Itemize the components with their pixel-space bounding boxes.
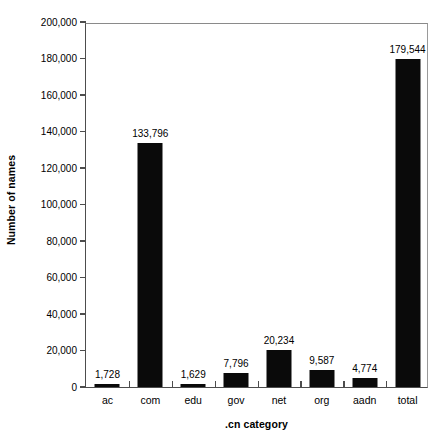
bar-group: 1,728ac bbox=[86, 24, 129, 387]
x-axis-category-label: com bbox=[140, 394, 160, 407]
x-axis-category-label: edu bbox=[184, 394, 202, 407]
y-tick-label: 60,000 bbox=[46, 270, 77, 285]
bar bbox=[352, 378, 377, 387]
bar bbox=[266, 350, 291, 387]
y-tick-label: 0 bbox=[71, 380, 77, 395]
bar-value-label: 133,796 bbox=[132, 128, 168, 140]
bar-value-label: 9,587 bbox=[309, 355, 334, 367]
x-axis-category-label: aadn bbox=[353, 394, 376, 407]
plot-area: 020,00040,00060,00080,000100,000120,0001… bbox=[85, 23, 428, 388]
y-tick-label: 80,000 bbox=[46, 234, 77, 249]
bar bbox=[95, 384, 120, 387]
x-axis-category-label: org bbox=[314, 394, 329, 407]
bar-group: 1,629edu bbox=[172, 24, 215, 387]
clipped-caption-remnant bbox=[85, 433, 428, 439]
bar-group: 133,796com bbox=[129, 24, 172, 387]
bar-value-label: 1,629 bbox=[181, 369, 206, 381]
y-tick-label: 100,000 bbox=[41, 197, 77, 212]
x-axis-category-label: gov bbox=[228, 394, 245, 407]
bar-chart-figure: Number of names 020,00040,00060,00080,00… bbox=[0, 0, 447, 440]
x-axis-category-label: net bbox=[272, 394, 287, 407]
bar bbox=[224, 373, 249, 387]
bar-group: 179,544total bbox=[386, 24, 429, 387]
bar bbox=[395, 59, 420, 387]
y-tick-label: 40,000 bbox=[46, 307, 77, 322]
y-tick-label: 180,000 bbox=[41, 51, 77, 66]
bar bbox=[138, 143, 163, 387]
bar-group: 9,587org bbox=[300, 24, 343, 387]
y-tick-label: 120,000 bbox=[41, 161, 77, 176]
bar-value-label: 20,234 bbox=[264, 335, 295, 347]
bar-value-label: 179,544 bbox=[389, 44, 425, 56]
y-tick-label: 20,000 bbox=[46, 343, 77, 358]
x-axis-category-label: ac bbox=[102, 394, 113, 407]
bar bbox=[309, 370, 334, 387]
y-tick-mark bbox=[80, 21, 86, 22]
x-axis-title: .cn category bbox=[85, 418, 428, 430]
bar-group: 20,234net bbox=[258, 24, 301, 387]
bar-group: 4,774aadn bbox=[343, 24, 386, 387]
bar bbox=[181, 384, 206, 387]
bar-value-label: 4,774 bbox=[352, 363, 377, 375]
bar-value-label: 7,796 bbox=[224, 358, 249, 370]
bar-value-label: 1,728 bbox=[95, 369, 120, 381]
bar-group: 7,796gov bbox=[215, 24, 258, 387]
y-tick-label: 200,000 bbox=[41, 15, 77, 30]
y-axis-title: Number of names bbox=[5, 120, 17, 280]
y-tick-label: 160,000 bbox=[41, 88, 77, 103]
x-axis-category-label: total bbox=[398, 394, 418, 407]
y-tick-label: 140,000 bbox=[41, 124, 77, 139]
